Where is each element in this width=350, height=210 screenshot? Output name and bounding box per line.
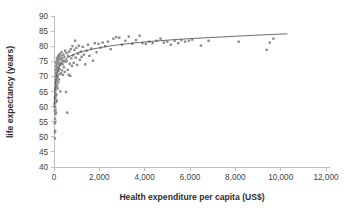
data-point [63,66,65,68]
y-tick-label: 70 [39,72,49,81]
data-point [59,55,61,57]
data-point [70,57,72,59]
data-point [128,35,130,37]
data-point [107,40,109,42]
x-tick-label: 6,000 [180,173,201,182]
data-point [71,45,73,47]
x-tick-label: 0 [52,173,57,182]
data-point [115,36,117,38]
data-point [61,69,63,71]
data-point [54,130,56,132]
y-tick-label: 80 [39,42,49,51]
x-tick-label: 4,000 [134,173,155,182]
data-point [166,40,168,42]
x-axis-title: Health expenditure per capita (US$) [119,192,264,202]
data-point [94,42,96,44]
data-point [177,42,179,44]
data-point [188,40,190,42]
y-tick-label: 60 [39,103,49,112]
y-tick-labels: 4045505560657075808590 [39,12,49,172]
data-point [200,44,202,46]
data-point [207,40,209,42]
y-tick-label: 65 [39,88,49,97]
data-point [75,47,77,49]
data-point [112,37,114,39]
data-point [54,108,56,110]
data-point [56,84,58,86]
data-point [63,56,65,58]
data-point [170,43,172,45]
data-point [265,49,267,51]
data-point [54,121,56,123]
data-point [69,75,71,77]
data-point [61,57,63,59]
data-point [84,63,86,65]
data-point [68,50,70,52]
data-point [151,42,153,44]
y-tick-label: 75 [39,57,49,66]
data-point [76,64,78,66]
data-point [97,43,99,45]
data-point [73,62,75,64]
data-point [70,48,72,50]
data-point [56,99,58,101]
data-point [102,41,104,43]
data-point [66,60,68,62]
data-point [82,46,84,48]
data-point [65,91,67,93]
data-point [184,40,186,42]
data-point [71,65,73,67]
data-point [66,111,68,113]
data-point [92,60,94,62]
data-point [80,56,82,58]
data-point [109,48,111,50]
data-point [74,40,76,42]
data-point [64,71,66,73]
y-tick-label: 50 [39,133,49,142]
data-point [55,111,57,113]
data-point [138,34,140,36]
data-point [61,63,63,65]
data-point [95,51,97,53]
data-point [56,87,58,89]
y-tick-label: 90 [39,12,49,21]
data-point [87,43,89,45]
data-point [66,69,68,71]
data-point [118,37,120,39]
x-tick-label: 2,000 [89,173,110,182]
data-point [272,37,274,39]
data-point [79,59,81,61]
data-point [58,78,60,80]
x-tick-label: 8,000 [225,173,246,182]
data-point [145,43,147,45]
data-point [135,39,137,41]
data-point [159,37,161,39]
data-point [64,50,66,52]
data-point [238,40,240,42]
scatter-chart: 4045505560657075808590 02,0004,0006,0008… [0,0,350,210]
data-point [73,49,75,51]
y-axis-title: life expectancy (years) [5,46,15,138]
data-point [54,137,56,139]
data-point [83,53,85,55]
y-tick-label: 45 [39,148,49,157]
data-point [88,55,90,57]
x-tick-label: 12,000 [313,173,338,182]
data-point [269,41,271,43]
data-point [59,90,61,92]
data-point [68,63,70,65]
data-point [54,117,56,119]
data-point [62,74,64,76]
data-point [163,41,165,43]
y-tick-label: 55 [39,118,49,127]
x-tick-label: 10,000 [268,173,293,182]
y-tick-label: 85 [39,27,49,36]
chart-canvas: 4045505560657075808590 02,0004,0006,0008… [0,0,350,210]
data-point [55,93,57,95]
data-point [78,44,80,46]
data-point [60,51,62,53]
data-point [124,40,126,42]
data-point [75,56,77,58]
data-point [62,53,64,55]
data-point [65,52,67,54]
